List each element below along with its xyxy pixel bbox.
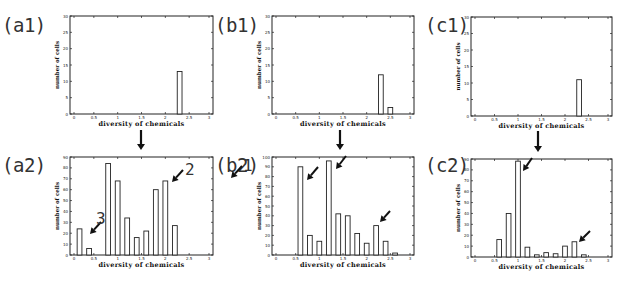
y-tick-label: 0	[65, 112, 68, 117]
plot-frame	[471, 159, 612, 257]
histogram-bar	[144, 231, 149, 255]
x-axis-label: diversity of chemicals	[99, 261, 185, 269]
figure-canvas: 00.511.522.53051015202530diversity of ch…	[0, 0, 643, 284]
y-axis-label: number of cells	[256, 41, 262, 89]
y-tick-label: 70	[63, 176, 69, 181]
histogram-bar	[172, 226, 177, 255]
pointer-arrow-icon	[307, 167, 318, 180]
pointer-arrow-icon	[336, 156, 346, 169]
histogram-bar	[336, 214, 341, 255]
x-tick-label: 0.5	[491, 117, 498, 122]
y-tick-label: 0	[466, 114, 469, 119]
histogram-bar	[317, 241, 322, 255]
histogram-bar	[572, 242, 577, 257]
y-tick-label: 40	[265, 213, 271, 218]
histogram-bar	[553, 254, 558, 257]
y-tick-label: 40	[464, 211, 470, 216]
x-axis-label: diversity of chemicals	[499, 263, 585, 271]
x-tick-label: 3	[208, 256, 211, 261]
down-arrow-icon	[336, 130, 344, 150]
y-tick-label: 90	[464, 157, 470, 162]
pointer-arrow-icon	[172, 170, 183, 182]
y-tick-label: 20	[464, 233, 470, 238]
plot-a1: 00.511.522.53051015202530diversity of ch…	[54, 14, 213, 129]
histogram-bar	[374, 226, 379, 255]
x-tick-label: 0	[474, 258, 477, 263]
histogram-bar	[177, 72, 182, 114]
y-tick-label: 100	[262, 155, 270, 160]
y-tick-label: 30	[265, 223, 271, 228]
down-arrow-icon	[534, 131, 542, 152]
pointer-arrow-icon	[231, 166, 242, 178]
y-tick-label: 80	[63, 165, 69, 170]
histogram-bar	[326, 161, 331, 255]
plot-b1: 00.511.522.53051015202530diversity of ch…	[256, 14, 414, 129]
pointer-arrow-icon	[523, 158, 532, 171]
y-tick-label: 10	[63, 79, 69, 84]
x-axis-label: diversity of chemicals	[499, 122, 585, 130]
histogram-bar	[298, 167, 303, 255]
plot-c2: 00.511.522.530102030405060708090diversit…	[455, 157, 612, 272]
y-tick-label: 40	[63, 209, 69, 214]
pointer-arrow-icon	[380, 211, 390, 222]
x-axis-label: diversity of chemicals	[300, 261, 386, 269]
y-tick-label: 30	[265, 14, 271, 19]
plot-frame	[272, 16, 414, 114]
x-tick-label: 0.5	[91, 256, 98, 261]
y-tick-label: 20	[464, 48, 470, 53]
x-tick-label: 3	[607, 117, 610, 122]
histogram-bar	[383, 241, 388, 255]
y-tick-label: 10	[63, 242, 69, 247]
x-tick-label: 0.5	[491, 258, 498, 263]
y-axis-label: number of cells	[455, 184, 461, 232]
x-tick-label: 0	[275, 256, 278, 261]
x-tick-label: 2.5	[186, 256, 193, 261]
x-tick-label: 3	[409, 115, 412, 120]
histogram-bar	[125, 218, 130, 255]
x-tick-label: 2.5	[387, 115, 394, 120]
y-tick-label: 70	[464, 178, 470, 183]
y-tick-label: 15	[63, 63, 69, 68]
y-tick-label: 0	[267, 253, 270, 258]
histogram-bar	[379, 75, 384, 114]
y-tick-label: 50	[63, 198, 69, 203]
y-axis-label: number of cells	[54, 182, 60, 230]
x-tick-label: 0.5	[292, 115, 299, 120]
y-axis-label: number of cells	[54, 41, 60, 89]
y-tick-label: 10	[265, 243, 271, 248]
y-tick-label: 80	[464, 167, 470, 172]
y-tick-label: 25	[464, 31, 470, 36]
x-tick-label: 2.5	[186, 115, 193, 120]
y-tick-label: 30	[63, 220, 69, 225]
histogram-bar	[525, 247, 530, 257]
y-tick-label: 25	[265, 30, 271, 35]
histogram-bar	[364, 243, 369, 255]
histogram-bar	[388, 107, 393, 114]
x-tick-label: 0.5	[292, 256, 299, 261]
y-tick-label: 60	[265, 194, 271, 199]
y-tick-label: 5	[267, 95, 270, 100]
histogram-bar	[115, 181, 120, 255]
histogram-bar	[393, 253, 398, 255]
x-tick-label: 2.5	[585, 117, 592, 122]
annotation-2: 2	[185, 160, 195, 179]
y-tick-label: 50	[464, 200, 470, 205]
y-tick-label: 25	[63, 30, 69, 35]
x-tick-label: 2.5	[585, 258, 592, 263]
y-tick-label: 30	[464, 222, 470, 227]
histogram-bar	[534, 255, 539, 257]
x-tick-label: 0	[73, 256, 76, 261]
down-arrow-icon	[137, 130, 145, 150]
y-tick-label: 70	[265, 184, 271, 189]
histogram-bar	[163, 181, 168, 255]
x-tick-label: 3	[607, 258, 610, 263]
y-tick-label: 0	[466, 255, 469, 260]
plot-c1: 00.511.522.53051015202530diversity of ch…	[455, 15, 612, 131]
y-tick-label: 50	[265, 204, 271, 209]
histogram-bar	[87, 248, 92, 255]
y-axis-label: number of cells	[256, 182, 262, 230]
y-tick-label: 20	[63, 46, 69, 51]
y-tick-label: 15	[265, 63, 271, 68]
histogram-bar	[577, 80, 582, 116]
y-tick-label: 20	[265, 46, 271, 51]
